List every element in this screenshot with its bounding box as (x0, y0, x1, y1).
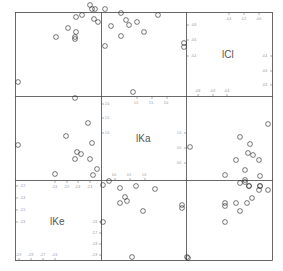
data-point (238, 209, 243, 214)
diagonal-label-lke: lKe (50, 216, 65, 227)
tick-label: -2.7 (92, 231, 98, 235)
data-point (125, 199, 130, 204)
diagonal-label-lcl: lCl (222, 49, 234, 60)
data-point (243, 168, 248, 173)
data-point (54, 35, 59, 40)
data-point (53, 172, 58, 177)
data-point (127, 23, 132, 28)
tick-label: 1.0 (142, 173, 147, 177)
tick-label: -0.8 (191, 23, 197, 27)
data-point (223, 204, 228, 209)
tick-label: -2.5 (64, 185, 70, 189)
tick-label: 2.0 (164, 101, 169, 105)
tick-label: -0.6 (262, 69, 268, 73)
scatterplot-matrix: -0.4-0.2-0.6-0.8-0.6-0.4-0.4-0.6-0.8-0.8… (0, 0, 283, 271)
data-point (74, 30, 79, 35)
data-point (180, 203, 185, 208)
data-point (88, 157, 93, 162)
tick-label: -2.3 (87, 185, 93, 189)
tick-label: -2.6 (52, 253, 58, 257)
data-point (103, 44, 108, 49)
tick-label: -0.4 (226, 17, 232, 21)
data-point (131, 90, 136, 95)
tick-label: -2.8 (92, 242, 98, 246)
data-point (96, 20, 101, 25)
tick-label: -2.4 (75, 185, 81, 189)
data-point (234, 158, 239, 163)
tick-label: 1.0 (177, 131, 182, 135)
tick-label: -2.6 (92, 220, 98, 224)
data-point (118, 201, 123, 206)
data-point (248, 142, 253, 147)
data-point (234, 201, 239, 206)
data-point (223, 201, 228, 206)
tick-label: -2.8 (28, 253, 34, 257)
data-point (238, 135, 243, 140)
data-point (180, 206, 185, 211)
tick-label: 0.0 (112, 173, 117, 177)
data-point (80, 13, 85, 18)
tick-label: -0.8 (195, 89, 201, 93)
data-point (119, 11, 124, 16)
tick-label: -0.4 (262, 54, 268, 58)
data-point (246, 151, 251, 156)
data-point (90, 141, 95, 146)
data-point (156, 13, 161, 18)
data-point (107, 179, 112, 184)
data-point (119, 34, 124, 39)
tick-label: -0.4 (224, 89, 230, 93)
data-point (66, 26, 71, 31)
tick-label: -2.4 (20, 196, 26, 200)
data-point (142, 30, 147, 35)
data-point (86, 121, 91, 126)
data-point (103, 7, 108, 12)
data-point (16, 80, 21, 85)
data-point (118, 186, 123, 191)
data-point (266, 188, 271, 193)
data-point (250, 196, 255, 201)
data-point (266, 122, 271, 127)
tick-label: -2.2 (20, 184, 26, 188)
tick-label: -0.6 (210, 89, 216, 93)
tick-label: -2.9 (16, 253, 22, 257)
data-point (74, 15, 79, 20)
data-point (124, 18, 129, 23)
data-point (141, 209, 146, 214)
data-point (93, 7, 98, 12)
data-point (90, 7, 95, 12)
data-point (257, 158, 262, 163)
data-point (223, 220, 228, 225)
tick-label: -0.6 (191, 38, 197, 42)
data-point (245, 201, 250, 206)
tick-label: 1.5 (134, 101, 139, 105)
tick-label: -2.9 (92, 253, 98, 257)
tick-label: -2.6 (20, 220, 26, 224)
diagonal-label-lka: lKa (136, 133, 151, 144)
data-point (79, 152, 84, 157)
data-point (238, 181, 243, 186)
data-point (134, 184, 139, 189)
data-point (64, 134, 69, 139)
tick-label: 0.0 (177, 161, 182, 165)
tick-label: 0.5 (127, 173, 132, 177)
tick-label: -0.8 (262, 83, 268, 87)
tick-label: 1.5 (105, 116, 110, 120)
tick-label: 0.5 (177, 146, 182, 150)
tick-label: 1.5 (149, 101, 154, 105)
data-point (223, 173, 228, 178)
data-point (109, 24, 114, 29)
data-point (16, 143, 21, 148)
data-point (91, 173, 96, 178)
data-point (247, 184, 252, 189)
data-point (95, 167, 100, 172)
data-point (153, 187, 158, 192)
data-point (258, 174, 263, 179)
data-point (251, 153, 256, 158)
tick-label: -2.6 (52, 185, 58, 189)
tick-label: -0.2 (241, 17, 247, 21)
tick-label: -0.4 (191, 54, 197, 58)
data-point (130, 255, 135, 260)
tick-label: -2.7 (40, 253, 46, 257)
data-point (188, 145, 193, 150)
tick-label: 1.0 (105, 131, 110, 135)
